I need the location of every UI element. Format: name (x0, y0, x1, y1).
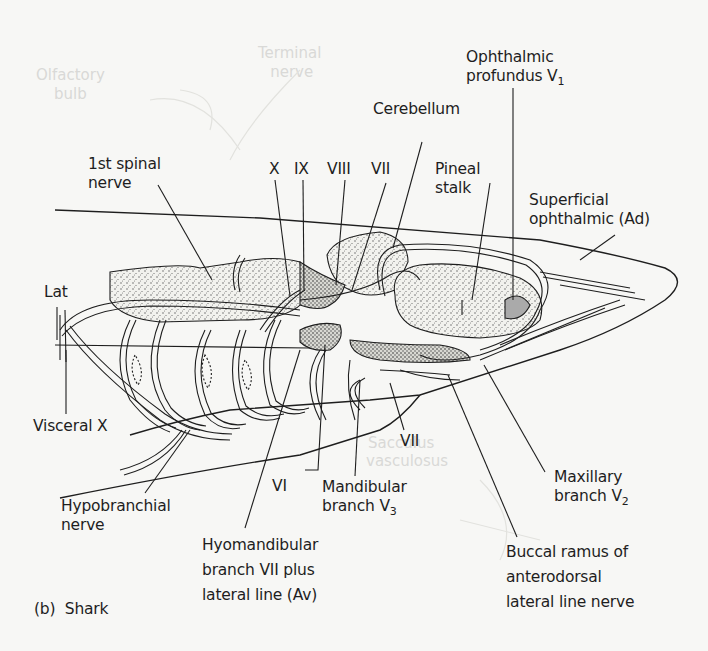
leader-hypobranchial (145, 430, 190, 493)
leader-superficial-ophthalmic (580, 235, 615, 260)
label-hypobranchial-nerve: Hypobranchial nerve (61, 497, 171, 535)
label-cn-x: X (269, 160, 279, 179)
panel-label: (b) (34, 600, 55, 618)
label-cerebellum: Cerebellum (373, 100, 460, 119)
label-vi: VI (272, 477, 287, 496)
label-cn-viii: VIII (327, 160, 351, 179)
label-pineal-stalk: Pineal stalk (435, 160, 480, 198)
label-first-spinal-nerve: 1st spinal nerve (88, 155, 161, 193)
panel-caption: (b) Shark (34, 600, 108, 619)
leader-hyomandibular (245, 350, 300, 528)
shark-cranial-nerves-figure: Terminal nerve Olfactory bulb Sacculus v… (0, 0, 708, 651)
label-lat: Lat (44, 283, 68, 302)
label-buccal-ramus: Buccal ramus of anterodorsal lateral lin… (506, 540, 634, 615)
label-superficial-ophthalmic: Superficial ophthalmic (Ad) (529, 191, 650, 229)
label-cn-ix: IX (294, 160, 309, 179)
branchial-nerves (55, 300, 310, 475)
leader-maxillary (484, 365, 545, 472)
label-mandibular-branch: Mandibular branch V3 (322, 478, 407, 521)
leader-cerebellum (393, 142, 422, 248)
label-vii-lower: VII (400, 432, 419, 451)
panel-title: Shark (65, 600, 109, 618)
label-visceral-x: Visceral X (33, 417, 107, 436)
label-ophthalmic-profundus: Ophthalmic profundus V1 (466, 48, 564, 91)
label-maxillary-branch: Maxillary branch V2 (554, 468, 629, 511)
leader-buccal (448, 375, 517, 537)
label-cn-vii-top: VII (371, 160, 390, 179)
label-hyomandibular-branch: Hyomandibular branch VII plus lateral li… (202, 533, 318, 608)
